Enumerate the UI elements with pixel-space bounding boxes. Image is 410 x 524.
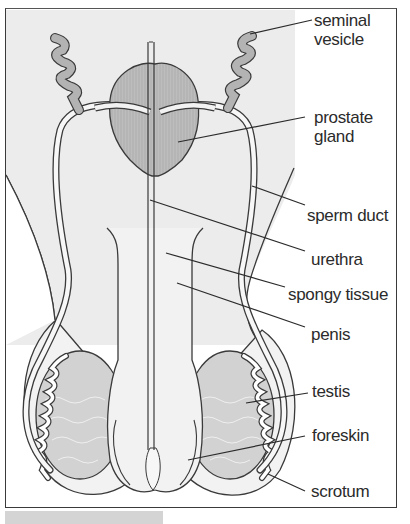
bottom-strip <box>5 511 163 524</box>
label-seminal-vesicle-line2: vesicle <box>314 30 370 49</box>
label-spongy-tissue: spongy tissue <box>288 285 388 304</box>
penis-icon <box>107 228 203 492</box>
label-scrotum: scrotum <box>311 482 369 501</box>
label-sperm-duct: sperm duct <box>307 206 388 225</box>
label-foreskin: foreskin <box>312 426 369 445</box>
label-urethra: urethra <box>311 250 363 269</box>
label-seminal-vesicle: seminal vesicle <box>314 11 370 49</box>
label-prostate-gland: prostate gland <box>314 108 373 146</box>
label-prostate-gland-line2: gland <box>314 127 373 146</box>
label-testis: testis <box>312 382 350 401</box>
label-seminal-vesicle-line1: seminal <box>314 11 370 30</box>
label-penis: penis <box>311 325 350 344</box>
label-prostate-gland-line1: prostate <box>314 108 373 127</box>
